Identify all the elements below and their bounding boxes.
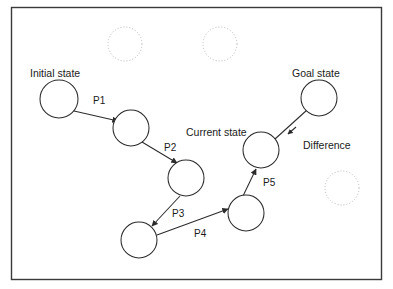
difference-arrowhead xyxy=(288,127,296,134)
operator-label-p5: P5 xyxy=(263,177,276,188)
operator-label-p2: P2 xyxy=(164,142,177,153)
unexplored-state-1-circle xyxy=(108,27,142,61)
operator-label-p4: P4 xyxy=(194,228,207,239)
state-4-circle xyxy=(121,222,157,258)
state-2-circle xyxy=(113,110,149,146)
current-state-label: Current state xyxy=(186,126,247,138)
problem-space-diagram: Initial state Goal state Current state D… xyxy=(0,0,393,289)
state-3-circle xyxy=(168,160,204,196)
operator-label-p1: P1 xyxy=(93,95,106,106)
diagram-canvas: Initial state Goal state Current state D… xyxy=(0,0,393,289)
difference-label: Difference xyxy=(303,139,351,151)
state-5-circle xyxy=(228,195,264,231)
goal-state-label: Goal state xyxy=(292,67,340,79)
edge-p1 xyxy=(74,111,118,121)
unexplored-state-2-circle xyxy=(203,27,237,61)
initial-state-circle xyxy=(40,80,78,118)
goal-state-circle xyxy=(301,80,337,116)
operator-label-p3: P3 xyxy=(172,208,185,219)
edge-difference xyxy=(275,110,307,139)
current-state-circle xyxy=(243,132,279,168)
initial-state-label: Initial state xyxy=(30,67,80,79)
edge-p4 xyxy=(157,209,228,235)
unexplored-state-3-circle xyxy=(325,171,359,205)
edge-p5 xyxy=(243,169,256,196)
